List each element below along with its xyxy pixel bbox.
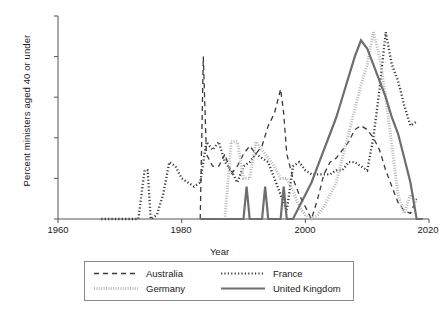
legend-swatch-united-kingdom — [220, 283, 266, 294]
legend-swatch-germany — [93, 283, 139, 294]
legend-row-1: Australia France — [93, 266, 347, 281]
axis-lines — [54, 16, 429, 223]
legend-item-united-kingdom[interactable]: United Kingdom — [220, 283, 347, 294]
legend-row-2: Germany United Kingdom — [93, 281, 347, 296]
y-axis-title: Percent ministers aged 40 or under — [21, 11, 32, 211]
legend-label-united-kingdom: United Kingdom — [273, 283, 341, 294]
series-line-france — [101, 32, 416, 219]
data-series-group — [101, 32, 423, 219]
plot-area — [58, 16, 429, 219]
x-tick-label-1980: 1980 — [161, 224, 201, 235]
x-tick-label-2000: 2000 — [285, 224, 325, 235]
chart-figure: Percent ministers aged 40 or under 25 20… — [0, 0, 439, 313]
legend-item-france[interactable]: France — [220, 268, 347, 279]
x-axis-title: Year — [0, 246, 439, 257]
legend-swatch-france — [220, 268, 266, 279]
legend-item-australia[interactable]: Australia — [93, 268, 220, 279]
legend-item-germany[interactable]: Germany — [93, 283, 220, 294]
x-tick-label-1960: 1960 — [38, 224, 78, 235]
chart-legend: Australia France Germany United Kingd — [84, 261, 354, 301]
legend-label-australia: Australia — [146, 268, 183, 279]
series-line-germany — [225, 32, 417, 219]
x-tick-label-2020: 2020 — [408, 224, 439, 235]
series-line-united-kingdom — [200, 40, 423, 219]
series-canvas — [58, 16, 429, 219]
legend-swatch-australia — [93, 268, 139, 279]
legend-label-germany: Germany — [146, 283, 185, 294]
legend-label-france: France — [273, 268, 303, 279]
